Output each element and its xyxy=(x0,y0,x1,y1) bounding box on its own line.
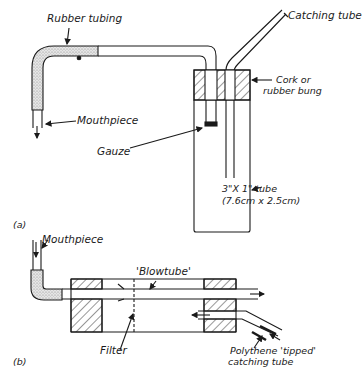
label-rubber-tubing: Rubber tubing xyxy=(47,13,122,24)
rubber-tubing xyxy=(32,46,98,110)
label-mouthpiece-b: Mouthpiece xyxy=(42,234,103,245)
label-cork-line2: rubber bung xyxy=(263,85,322,96)
label-gauze: Gauze xyxy=(97,146,130,157)
rubber-elbow xyxy=(31,270,62,300)
panel-label-a: (a) xyxy=(13,219,26,230)
panel-label-b: (b) xyxy=(13,356,26,367)
label-tube-size-line1: 3"X 1" tube xyxy=(222,183,277,194)
label-catching-line1: Polythene 'tipped' xyxy=(230,345,316,356)
label-catching-line2: catching tube xyxy=(228,356,293,367)
label-catching-tube: Catching tube xyxy=(288,10,362,21)
label-tube-size-line2: (7.6cm x 2.5cm) xyxy=(222,195,300,206)
figure-b xyxy=(31,240,282,350)
label-filter: Filter xyxy=(100,345,127,356)
label-cork-line1: Cork or xyxy=(276,74,311,85)
label-mouthpiece-a: Mouthpiece xyxy=(77,115,138,126)
label-blowtube: 'Blowtube' xyxy=(136,266,191,277)
